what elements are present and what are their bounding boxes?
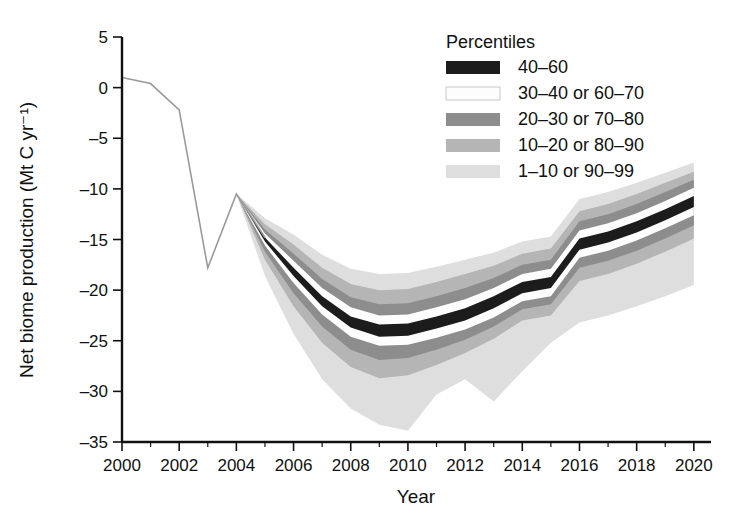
x-tick-label: 2002: [160, 456, 198, 475]
x-tick-label: 2008: [332, 456, 370, 475]
x-tick-label: 2010: [389, 456, 427, 475]
legend-item-label: 20–30 or 70–80: [518, 109, 644, 129]
legend-title: Percentiles: [446, 32, 535, 52]
chart-canvas: 2000200220042006200820102012201420162018…: [0, 0, 738, 525]
legend-item-label: 40–60: [518, 57, 568, 77]
legend-item-label: 10–20 or 80–90: [518, 135, 644, 155]
x-tick-label: 2014: [503, 456, 541, 475]
x-tick-label: 2016: [561, 456, 599, 475]
y-tick-label: –5: [89, 129, 108, 148]
x-tick-label: 2000: [103, 456, 141, 475]
x-axis-title: Year: [397, 486, 436, 507]
legend-swatch: [446, 139, 500, 152]
legend-swatch: [446, 61, 500, 74]
y-tick-label: 0: [99, 79, 108, 98]
legend-swatch: [446, 113, 500, 126]
x-tick-label: 2004: [217, 456, 255, 475]
x-axis-tick-labels: 2000200220042006200820102012201420162018…: [103, 456, 713, 475]
x-tick-label: 2006: [275, 456, 313, 475]
y-axis-title-text: Net biome production (Mt C yr⁻¹): [16, 102, 37, 378]
x-tick-label: 2012: [446, 456, 484, 475]
legend-swatch: [446, 87, 500, 100]
y-tick-label: –20: [80, 281, 108, 300]
y-tick-label: –35: [80, 433, 108, 452]
y-axis-title: Net biome production (Mt C yr⁻¹): [16, 102, 37, 378]
chart-figure: 2000200220042006200820102012201420162018…: [0, 0, 738, 525]
y-tick-label: –25: [80, 332, 108, 351]
y-tick-label: –10: [80, 180, 108, 199]
legend-item-label: 1–10 or 90–99: [518, 161, 634, 181]
legend-swatch: [446, 165, 500, 178]
y-tick-label: –15: [80, 231, 108, 250]
x-tick-label: 2018: [618, 456, 656, 475]
legend-item-label: 30–40 or 60–70: [518, 83, 644, 103]
x-tick-label: 2020: [675, 456, 713, 475]
y-tick-label: –30: [80, 382, 108, 401]
y-tick-label: 5: [99, 28, 108, 47]
